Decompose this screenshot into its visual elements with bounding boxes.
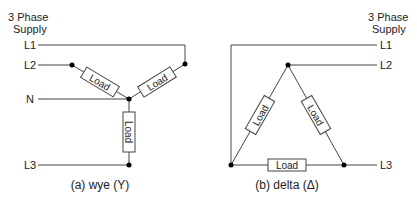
- wye-n-label: N: [26, 93, 34, 105]
- delta-load-bottom: Load: [268, 159, 306, 171]
- delta-supply-label-2: Supply: [372, 23, 406, 35]
- wye-node-l3: [127, 163, 132, 168]
- delta-l1-label: L1: [380, 39, 392, 51]
- wye-load-left: Load: [81, 67, 120, 97]
- wye-load-right: Load: [138, 67, 177, 97]
- delta-caption: (b) delta (Δ): [255, 178, 318, 192]
- delta-node-top: [286, 63, 291, 68]
- delta-node-bottom-left: [229, 163, 234, 168]
- wye-diagram: 3 Phase Supply L1 L2 N L3 Load Load Load: [8, 11, 188, 192]
- diagram-canvas: 3 Phase Supply L1 L2 N L3 Load Load Load: [0, 0, 417, 202]
- wye-supply-label-1: 3 Phase: [8, 11, 48, 23]
- wye-l1-label: L1: [24, 39, 36, 51]
- three-phase-diagram: 3 Phase Supply L1 L2 N L3 Load Load Load: [0, 0, 417, 202]
- delta-diagram: 3 Phase Supply L1 L2 L3 Load Load Load (…: [229, 11, 409, 192]
- delta-node-bottom-right: [342, 163, 347, 168]
- wye-l2-label: L2: [24, 59, 36, 71]
- wye-l3-label: L3: [24, 159, 36, 171]
- svg-text:Load: Load: [250, 103, 271, 128]
- wye-caption: (a) wye (Y): [71, 178, 130, 192]
- delta-load-right: Load: [301, 96, 330, 135]
- delta-load-left: Load: [245, 96, 274, 135]
- delta-l2-label: L2: [380, 59, 392, 71]
- svg-text:Load: Load: [305, 103, 326, 128]
- wye-l1-wire: [38, 45, 185, 64]
- wye-node-l1: [183, 62, 188, 67]
- wye-supply-label-2: Supply: [13, 23, 47, 35]
- wye-load-bottom: Load: [123, 112, 135, 152]
- svg-text:Load: Load: [276, 160, 298, 171]
- delta-l3-label: L3: [380, 159, 392, 171]
- wye-node-l2: [70, 63, 75, 68]
- wye-node-neutral: [127, 97, 132, 102]
- svg-text:Load: Load: [123, 121, 134, 143]
- delta-supply-label-1: 3 Phase: [368, 11, 408, 23]
